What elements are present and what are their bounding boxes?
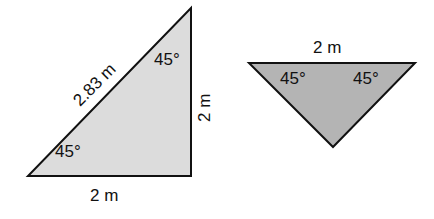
base-label: 2 m — [90, 186, 118, 205]
right-angle-label: 45° — [353, 69, 379, 88]
top-side-label: 2 m — [313, 38, 341, 57]
top-angle-label: 45° — [154, 50, 180, 69]
bottom-angle-label: 45° — [55, 142, 81, 161]
inverted-triangle — [249, 63, 415, 147]
vertical-side-label: 2 m — [195, 94, 214, 122]
right-triangle — [28, 8, 191, 176]
left-angle-label: 45° — [280, 69, 306, 88]
triangle-diagram: 45° 45° 2.83 m 2 m 2 m 2 m 45° 45° — [0, 0, 434, 219]
